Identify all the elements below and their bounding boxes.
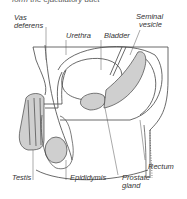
label-vas-deferens-line2: deferens	[14, 22, 43, 30]
label-seminal-vesicle-line2: vesicle	[139, 21, 162, 29]
label-testis: Testis	[12, 174, 31, 182]
label-urethra: Urethra	[66, 32, 91, 40]
seminal-vesicle-shape	[104, 52, 146, 108]
label-prostate-gland-line2: gland	[122, 182, 140, 190]
label-epididymis: Epididymis	[70, 174, 106, 182]
label-rectum: Rectum	[148, 163, 174, 171]
label-bladder: Bladder	[104, 32, 130, 40]
prostate-gland-shape	[80, 93, 105, 110]
